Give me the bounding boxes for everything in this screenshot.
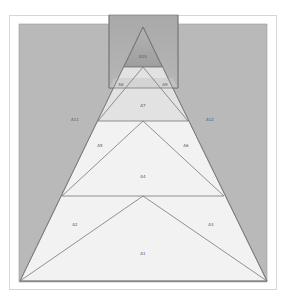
label-a1: A1 bbox=[140, 251, 146, 256]
label-a11: A11 bbox=[71, 117, 79, 122]
triangle-diagram: A1 A2 A3 A4 A5 A6 A7 A8 A9 A10 A11 A12 bbox=[0, 0, 286, 301]
label-a2: A2 bbox=[72, 222, 78, 227]
label-a8: A8 bbox=[118, 82, 124, 87]
label-a4: A4 bbox=[140, 174, 146, 179]
label-a10: A10 bbox=[139, 54, 147, 59]
label-a3: A3 bbox=[208, 222, 214, 227]
label-a12: A12 bbox=[206, 117, 214, 122]
label-a9: A9 bbox=[162, 82, 168, 87]
label-a7: A7 bbox=[140, 103, 146, 108]
label-a5: A5 bbox=[97, 143, 103, 148]
label-a6: A6 bbox=[183, 143, 189, 148]
